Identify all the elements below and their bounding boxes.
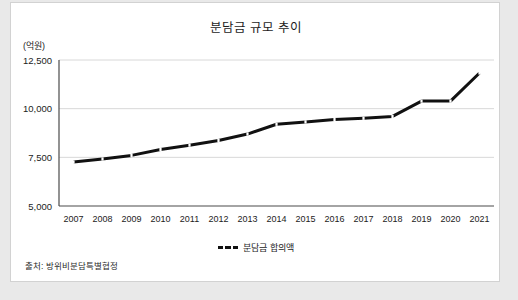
- data-series-line: [74, 73, 480, 162]
- data-point-marker: [72, 161, 74, 164]
- x-axis-tick-label: 2020: [440, 214, 460, 224]
- data-point-marker: [101, 157, 103, 160]
- y-axis-tick-label: 5,000: [28, 201, 52, 212]
- y-axis-tick-label: 10,000: [23, 103, 52, 114]
- source-note: 출처: 방위비분담특별협정: [25, 259, 118, 271]
- x-axis-tick-label: 2011: [180, 214, 199, 224]
- x-axis-tick-label: 2012: [208, 214, 228, 224]
- data-point-marker: [420, 99, 422, 102]
- data-point-marker: [362, 117, 364, 120]
- data-point-marker: [188, 144, 190, 147]
- x-axis-tick-label: 2014: [266, 214, 286, 224]
- x-axis-tick-label: 2009: [121, 214, 141, 224]
- data-point-marker: [246, 132, 248, 135]
- x-axis-tick-label: 2021: [469, 214, 489, 224]
- data-point-marker: [333, 118, 335, 121]
- y-axis-tick-label: 12,500: [23, 55, 52, 66]
- x-axis-tick-label: 2017: [353, 214, 373, 224]
- data-point-marker: [391, 115, 393, 118]
- data-point-marker: [449, 99, 451, 102]
- chart-card: 분담금 규모 추이 (억원) 5,0007,50010,00012,500200…: [10, 2, 500, 282]
- chart-legend: 분담금 합의액: [11, 241, 501, 254]
- x-axis-tick-label: 2007: [63, 214, 83, 224]
- x-axis-tick-label: 2010: [150, 214, 170, 224]
- legend-item-label: 분담금 합의액: [243, 241, 294, 254]
- x-axis-tick-label: 2019: [411, 214, 431, 224]
- x-axis-tick-label: 2008: [92, 214, 112, 224]
- data-point-marker: [275, 123, 277, 126]
- x-axis-tick-label: 2016: [324, 214, 344, 224]
- y-axis-tick-label: 7,500: [28, 152, 52, 163]
- data-point-marker: [304, 120, 306, 123]
- data-point-marker: [130, 154, 132, 157]
- x-axis-tick-label: 2013: [237, 214, 257, 224]
- x-axis-tick-label: 2015: [295, 214, 315, 224]
- legend-line-swatch-icon: [218, 246, 238, 249]
- data-point-marker: [478, 71, 480, 74]
- page-background: 분담금 규모 추이 (억원) 5,0007,50010,00012,500200…: [0, 0, 518, 300]
- data-point-marker: [217, 139, 219, 142]
- x-axis-tick-label: 2018: [382, 214, 402, 224]
- data-point-marker: [159, 148, 161, 151]
